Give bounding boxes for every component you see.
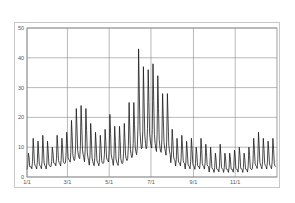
y-tick-label: 30 (18, 85, 24, 91)
x-tick-label: 11/1 (230, 179, 240, 185)
x-tick-label: 1/1 (23, 179, 31, 185)
line-chart: 01020304050 1/13/15/17/19/111/1 (0, 0, 295, 203)
x-tick-label: 7/1 (147, 179, 155, 185)
x-tick-label: 3/1 (64, 179, 72, 185)
y-tick-label: 50 (18, 25, 24, 31)
x-tick-label: 9/1 (190, 179, 198, 185)
y-tick-label: 40 (18, 55, 24, 61)
x-tick-label: 5/1 (105, 179, 113, 185)
plot-area-border (27, 28, 277, 177)
x-axis-ticks: 1/13/15/17/19/111/1 (23, 179, 240, 185)
y-tick-label: 10 (18, 144, 24, 150)
y-axis-ticks: 01020304050 (18, 25, 24, 180)
gridlines (27, 28, 277, 177)
data-series-line (27, 49, 276, 172)
y-tick-label: 20 (18, 114, 24, 120)
